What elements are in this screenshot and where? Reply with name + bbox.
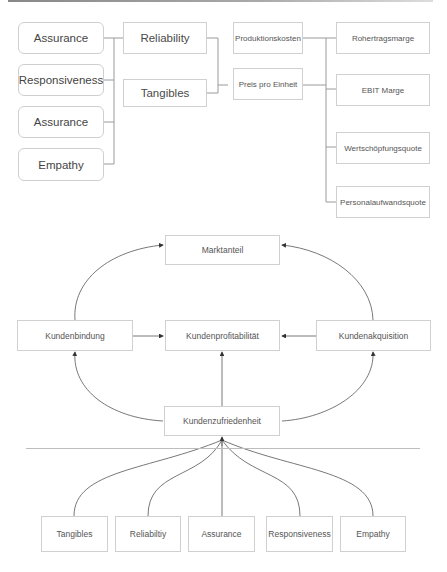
node-assurance-2: Assurance (18, 106, 104, 138)
node-marktanteil: Marktanteil (165, 235, 280, 265)
node-kundenbindung: Kundenbindung (17, 320, 133, 351)
node-reliability: Reliability (123, 22, 207, 54)
node-assurance-1: Assurance (18, 22, 104, 54)
node-rohertragsmarge: Rohertragsmarge (336, 22, 430, 54)
separator-line (26, 448, 420, 449)
node-wertschoepfungsquote: Wertschöpfungsquote (336, 132, 430, 164)
node-kundenzufriedenheit: Kundenzufriedenheit (164, 406, 280, 436)
node-ebit-marge: EBIT Marge (336, 74, 430, 106)
node-tangibles-driver: Tangibles (41, 516, 108, 552)
node-reliability-driver: Reliabiltiy (115, 516, 181, 552)
node-empathy: Empathy (18, 148, 104, 181)
node-kundenakquisition: Kundenakquisition (316, 320, 431, 351)
node-assurance-driver: Assurance (188, 516, 255, 552)
node-responsiveness: Responsiveness (18, 64, 104, 96)
node-tangibles: Tangibles (123, 79, 207, 107)
node-preis-pro-einheit: Preis pro Einheit (233, 68, 303, 100)
node-kundenprofitabilitaet: Kundenprofitabilität (165, 320, 280, 351)
node-produktionskosten: Produktionskosten (233, 22, 303, 54)
node-personalaufwandsquote: Personalaufwandsquote (336, 186, 430, 218)
node-responsiveness-driver: Responsiveness (266, 516, 333, 552)
node-empathy-driver: Empathy (340, 516, 406, 552)
